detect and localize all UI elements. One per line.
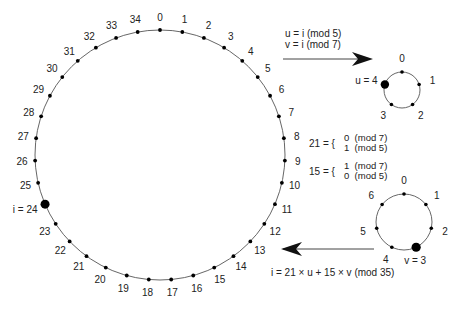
residue-point xyxy=(424,203,428,207)
residue-label: 13 xyxy=(254,245,266,256)
residue-label: 0 xyxy=(399,53,405,64)
residue-point xyxy=(104,266,108,270)
big-circle-mod-35: 01234567891011121314151617181920212223i … xyxy=(13,12,301,298)
highlight-label: v = 3 xyxy=(404,255,426,266)
eq21-bottom: 1 (mod 5) xyxy=(344,143,387,153)
residue-label: 21 xyxy=(73,261,85,272)
residue-point xyxy=(268,94,272,98)
ring-outline xyxy=(376,194,432,250)
residue-label: 28 xyxy=(23,107,35,118)
residue-label: 18 xyxy=(142,287,154,298)
residue-point xyxy=(283,159,287,163)
residue-label: 29 xyxy=(33,84,45,95)
residue-label: 7 xyxy=(288,107,294,118)
residue-label: 1 xyxy=(182,14,188,25)
residue-point xyxy=(68,239,72,243)
residue-label: 10 xyxy=(289,180,301,191)
arrow-left-icon xyxy=(281,242,374,256)
residue-label: 23 xyxy=(39,226,51,237)
residue-point xyxy=(147,278,151,282)
residue-point xyxy=(380,203,384,207)
residue-point xyxy=(136,30,140,34)
residue-label: 8 xyxy=(294,131,300,142)
residue-label: 30 xyxy=(47,63,59,74)
residue-point xyxy=(429,226,433,230)
residue-point xyxy=(60,75,64,79)
residue-point xyxy=(191,274,195,278)
residue-label: 5 xyxy=(265,63,271,74)
residue-label: 33 xyxy=(106,20,118,31)
residue-label: 11 xyxy=(282,204,293,215)
residue-point xyxy=(277,114,281,118)
residue-label: 17 xyxy=(167,287,179,298)
residue-label: 22 xyxy=(55,245,67,256)
residue-label: 3 xyxy=(380,110,386,121)
residue-label: 19 xyxy=(118,283,130,294)
residue-label: 12 xyxy=(270,226,282,237)
residue-point xyxy=(39,114,43,118)
residue-point xyxy=(240,59,244,63)
residue-label: 2 xyxy=(206,20,212,31)
highlight-label: i = 24 xyxy=(13,204,38,215)
residue-point xyxy=(280,181,284,185)
residue-point xyxy=(125,274,129,278)
residue-point xyxy=(390,245,394,249)
residue-point xyxy=(417,83,421,87)
residue-label: 1 xyxy=(434,190,440,201)
residue-label: 6 xyxy=(279,84,285,95)
small-circle-mod-5: 0123u = 4 xyxy=(355,53,436,122)
residue-point xyxy=(282,136,286,140)
residue-label: 3 xyxy=(228,31,234,42)
residue-label: 32 xyxy=(84,31,96,42)
mod7-mapping-label: v = i (mod 7) xyxy=(285,39,341,50)
residue-point xyxy=(390,103,394,107)
highlighted-point xyxy=(41,200,50,209)
residue-point xyxy=(76,59,80,63)
residue-point xyxy=(411,103,415,107)
residue-point xyxy=(400,70,404,74)
residue-point xyxy=(94,46,98,50)
residue-point xyxy=(375,226,379,230)
residue-label: 0 xyxy=(157,12,163,23)
residue-point xyxy=(180,30,184,34)
residue-point xyxy=(34,136,38,140)
residue-label: 31 xyxy=(64,46,76,57)
eq15-lhs: 15 = { xyxy=(309,166,335,177)
residue-point xyxy=(36,181,40,185)
highlighted-point xyxy=(381,80,389,88)
residue-label: 4 xyxy=(383,254,389,265)
residue-point xyxy=(169,278,173,282)
residue-label: 4 xyxy=(248,46,254,57)
small-circle-mod-7: 012v = 3456 xyxy=(360,175,448,267)
arrow-right-icon xyxy=(283,52,373,66)
crt-diagram: 01234567891011121314151617181920212223i … xyxy=(0,0,459,309)
residue-point xyxy=(402,192,406,196)
mod5-mapping-label: u = i (mod 5) xyxy=(285,28,341,39)
residue-point xyxy=(248,239,252,243)
residue-point xyxy=(262,222,266,226)
reconstruction-formula: i = 21 × u + 15 × v (mod 35) xyxy=(271,267,394,278)
residue-label: 34 xyxy=(130,14,142,25)
residue-point xyxy=(48,94,52,98)
residue-point xyxy=(114,36,118,40)
residue-label: 5 xyxy=(360,226,366,237)
residue-label: 15 xyxy=(214,274,226,285)
residue-label: 2 xyxy=(418,110,424,121)
residue-label: 27 xyxy=(18,131,30,142)
residue-point xyxy=(158,28,162,32)
highlight-label: u = 4 xyxy=(355,75,378,86)
residue-point xyxy=(202,36,206,40)
residue-point xyxy=(273,202,277,206)
residue-label: 9 xyxy=(295,156,301,167)
residue-point xyxy=(212,266,216,270)
ring-outline xyxy=(35,30,285,280)
residue-label: 14 xyxy=(236,261,248,272)
residue-point xyxy=(256,75,260,79)
residue-point xyxy=(54,222,58,226)
eq15-bottom: 0 (mod 5) xyxy=(344,171,387,181)
residue-label: 0 xyxy=(401,175,407,186)
residue-label: 25 xyxy=(20,180,32,191)
highlighted-point xyxy=(412,243,421,252)
residue-label: 1 xyxy=(430,75,436,86)
residue-point xyxy=(85,254,89,258)
